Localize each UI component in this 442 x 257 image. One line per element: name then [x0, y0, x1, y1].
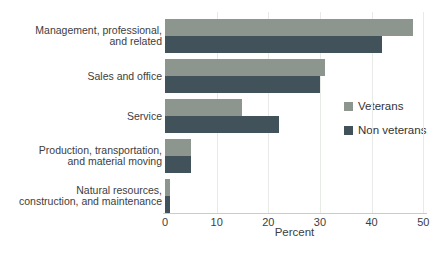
- category-label-line: Service: [0, 111, 162, 122]
- bar-non-veterans-4: [165, 196, 170, 213]
- legend-item-non-veterans: Non veterans: [344, 124, 426, 136]
- category-label-line: and related: [0, 36, 162, 47]
- legend: Veterans Non veterans: [344, 100, 426, 148]
- bar-veterans-4: [165, 179, 170, 196]
- bar-chart: Veterans Non veterans Percent 0102030405…: [0, 0, 442, 257]
- bar-veterans-3: [165, 139, 191, 156]
- bar-veterans-2: [165, 99, 242, 116]
- bar-non-veterans-2: [165, 116, 279, 133]
- x-tick-label-50: 50: [408, 216, 438, 228]
- x-tick-label-10: 10: [202, 216, 232, 228]
- x-axis-line: [163, 213, 427, 214]
- legend-label-non-veterans: Non veterans: [358, 124, 426, 136]
- category-label-1: Sales and office: [0, 71, 162, 82]
- bar-non-veterans-3: [165, 156, 191, 173]
- category-label-line: Sales and office: [0, 71, 162, 82]
- legend-item-veterans: Veterans: [344, 100, 426, 112]
- x-tick-label-30: 30: [305, 216, 335, 228]
- category-label-0: Management, professional,and related: [0, 25, 162, 47]
- x-tick-label-20: 20: [253, 216, 283, 228]
- category-label-4: Natural resources,construction, and main…: [0, 185, 162, 207]
- legend-label-veterans: Veterans: [358, 100, 403, 112]
- bar-veterans-1: [165, 59, 325, 76]
- category-label-line: and material moving: [0, 156, 162, 167]
- gridline-50: [423, 12, 424, 213]
- bar-non-veterans-1: [165, 76, 320, 93]
- category-label-3: Production, transportation,and material …: [0, 145, 162, 167]
- x-tick-label-0: 0: [150, 216, 180, 228]
- category-label-line: construction, and maintenance: [0, 196, 162, 207]
- bar-veterans-0: [165, 19, 413, 36]
- bar-non-veterans-0: [165, 36, 382, 53]
- legend-swatch-non-veterans: [344, 126, 353, 135]
- category-label-2: Service: [0, 111, 162, 122]
- legend-swatch-veterans: [344, 102, 353, 111]
- x-tick-label-40: 40: [357, 216, 387, 228]
